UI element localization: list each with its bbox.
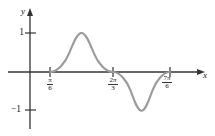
fraction-denominator: 3 (108, 85, 117, 92)
x-tick-label-2pi-over-3: 2π 3 (100, 77, 126, 93)
plot-canvas (0, 0, 215, 136)
x-tick-label-pi-over-6: π 6 (37, 77, 63, 93)
y-tick-label-negative-1: −1 (5, 105, 21, 115)
y-axis-label: y (21, 7, 25, 16)
y-tick-label-1: 1 (8, 28, 24, 38)
x-axis-label: x (203, 71, 207, 80)
graph-figure: y x 1 −1 π 6 2π 3 7π 6 (0, 0, 215, 136)
fraction-pi-over-6: π 6 (47, 77, 53, 93)
x-tick-label-7pi-over-6: 7π 6 (154, 75, 180, 91)
fraction-denominator: 6 (162, 83, 171, 90)
fraction-denominator: 6 (47, 85, 53, 92)
fraction-7pi-over-6: 7π 6 (162, 75, 171, 91)
y-axis-arrow (27, 8, 33, 16)
fraction-2pi-over-3: 2π 3 (108, 77, 117, 93)
